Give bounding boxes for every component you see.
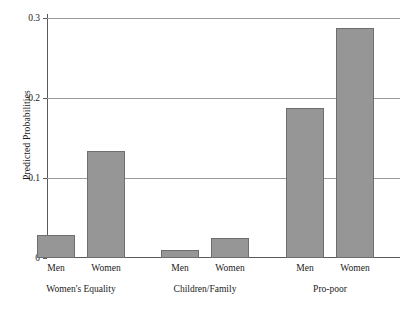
y-tick-label-0.3: 0.3	[28, 13, 40, 23]
y-tick-label-0.1: 0.1	[28, 173, 40, 183]
x-tick-label: Men	[47, 263, 64, 273]
bar-chart-figure: Predicted Probabilities 00.10.20.3 MenWo…	[0, 0, 417, 310]
x-group-title: Women's Equality	[46, 284, 115, 294]
x-group-title: Pro-poor	[313, 284, 347, 294]
x-tick-label: Men	[296, 263, 313, 273]
y-tick-label-0.2: 0.2	[28, 93, 40, 103]
bar	[336, 28, 374, 258]
x-tick-label: Men	[171, 263, 188, 273]
y-tick-mark-0.1	[43, 178, 47, 179]
bar	[161, 250, 199, 258]
x-tick-label: Women	[91, 263, 120, 273]
x-tick-label: Women	[215, 263, 244, 273]
y-axis-title: Predicted Probabilities	[22, 45, 32, 225]
bar	[37, 235, 75, 258]
bar	[286, 108, 324, 258]
y-axis-line	[47, 14, 48, 258]
y-tick-mark-0	[43, 258, 47, 259]
x-tick-label: Women	[340, 263, 369, 273]
plot-area: 00.10.20.3	[47, 18, 400, 258]
gridline-0.3	[47, 18, 400, 19]
y-tick-mark-0.3	[43, 18, 47, 19]
y-tick-mark-0.2	[43, 98, 47, 99]
bar	[211, 238, 249, 258]
bar	[87, 151, 125, 258]
x-group-title: Children/Family	[174, 284, 237, 294]
